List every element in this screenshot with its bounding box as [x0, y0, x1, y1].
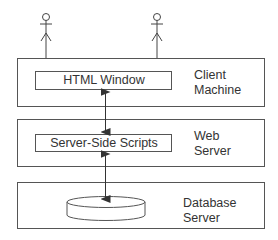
client-label-line2: Machine [194, 83, 241, 98]
database-cylinder-icon [67, 197, 145, 221]
web-server-label: Web Server [194, 129, 231, 159]
client-label-line1: Client [194, 68, 241, 83]
database-label-line1: Database [183, 196, 237, 211]
web-label-line2: Server [194, 144, 231, 159]
actor-icon [40, 14, 52, 59]
server-side-scripts-label: Server-Side Scripts [36, 135, 172, 152]
html-window-label: HTML Window [36, 72, 172, 89]
client-machine-label: Client Machine [194, 68, 241, 98]
database-label-line2: Server [183, 211, 237, 226]
actor-icon [151, 14, 163, 59]
database-server-label: Database Server [183, 196, 237, 226]
web-label-line1: Web [194, 129, 231, 144]
